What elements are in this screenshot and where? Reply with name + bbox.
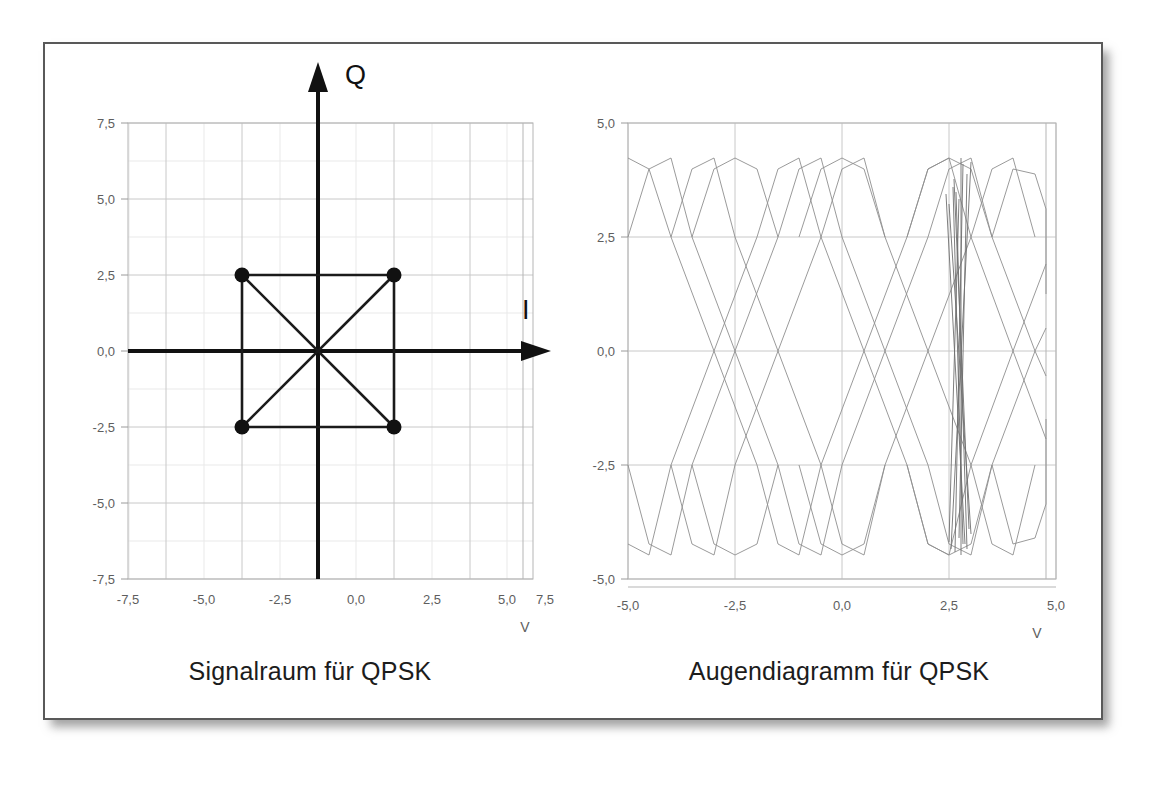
caption-signal-space: Signalraum für QPSK — [45, 657, 575, 686]
eye-transition-bundle — [946, 158, 971, 555]
y-tick-label: 0,0 — [597, 344, 615, 359]
x-tick-label: 7,5 — [536, 592, 554, 607]
x-tick-label: -5,0 — [617, 598, 639, 613]
y-tick-label: -5,0 — [93, 496, 115, 511]
i-axis — [128, 341, 551, 361]
y-tick-label: 2,5 — [597, 230, 615, 245]
x-tick-label: -5,0 — [193, 592, 215, 607]
figure-page: 7,5 5,0 2,5 0,0 -2,5 -5,0 -7,5 -7,5 -5,0… — [0, 0, 1162, 792]
q-axis — [308, 62, 328, 579]
eye-x-axis-unit-label: V — [1032, 625, 1042, 641]
eye-grid-major-group — [628, 123, 1056, 579]
y-tick-label: 2,5 — [97, 268, 115, 283]
y-tick-label: 7,5 — [97, 116, 115, 131]
figure-frame: 7,5 5,0 2,5 0,0 -2,5 -5,0 -7,5 -7,5 -5,0… — [43, 42, 1103, 720]
eye-y-tick-labels: 5,0 2,5 0,0 -2,5 -5,0 — [593, 116, 615, 587]
x-tick-label: 2,5 — [423, 592, 441, 607]
y-tick-label: -5,0 — [593, 572, 615, 587]
caption-eye-diagram: Augendiagramm für QPSK — [575, 657, 1103, 686]
y-tick-label: 5,0 — [597, 116, 615, 131]
x-tick-label: 5,0 — [498, 592, 516, 607]
i-axis-label: I — [522, 295, 530, 325]
eye-x-tick-labels: -5,0 -2,5 0,0 2,5 5,0 — [617, 598, 1065, 613]
x-tick-label: 2,5 — [940, 598, 958, 613]
constellation-point-upper-left — [235, 268, 250, 283]
constellation-plot: 7,5 5,0 2,5 0,0 -2,5 -5,0 -7,5 -7,5 -5,0… — [45, 44, 575, 654]
x-tick-label: -2,5 — [724, 598, 746, 613]
q-axis-label: Q — [345, 60, 366, 90]
eye-traces-group — [628, 158, 1046, 555]
eye-tick-marks — [621, 123, 628, 579]
x-tick-label: -2,5 — [269, 592, 291, 607]
x-tick-label: -7,5 — [117, 592, 139, 607]
x-tick-label: 0,0 — [833, 598, 851, 613]
x-tick-label: 5,0 — [1047, 598, 1065, 613]
y-tick-label: -7,5 — [93, 572, 115, 587]
q-axis-arrowhead — [308, 62, 328, 92]
y-tick-labels: 7,5 5,0 2,5 0,0 -2,5 -5,0 -7,5 — [93, 116, 115, 587]
x-tick-labels: -7,5 -5,0 -2,5 0,0 2,5 5,0 7,5 — [117, 592, 554, 607]
i-axis-arrowhead — [521, 341, 551, 361]
y-tick-label: 0,0 — [97, 344, 115, 359]
y-tick-label: -2,5 — [93, 420, 115, 435]
y-tick-label: 5,0 — [97, 192, 115, 207]
panel-eye-diagram: 5,0 2,5 0,0 -2,5 -5,0 -5,0 -2,5 0,0 2,5 … — [575, 44, 1103, 718]
constellation-point-lower-left — [235, 420, 250, 435]
x-axis-unit-label: V — [520, 619, 530, 635]
eye-diagram-plot: 5,0 2,5 0,0 -2,5 -5,0 -5,0 -2,5 0,0 2,5 … — [575, 44, 1103, 654]
constellation-point-lower-right — [387, 420, 402, 435]
x-tick-label: 0,0 — [347, 592, 365, 607]
panel-signal-space: 7,5 5,0 2,5 0,0 -2,5 -5,0 -7,5 -7,5 -5,0… — [45, 44, 575, 718]
y-tick-label: -2,5 — [593, 458, 615, 473]
constellation-point-upper-right — [387, 268, 402, 283]
tick-marks — [121, 123, 128, 579]
